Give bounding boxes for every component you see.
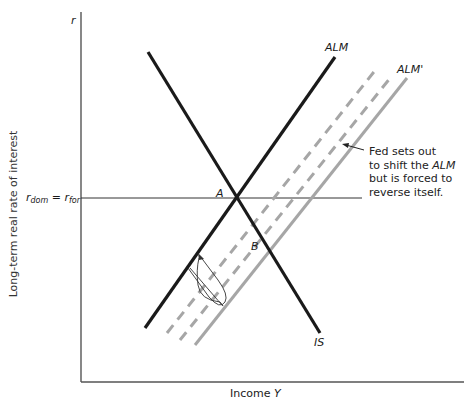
- annotation-line-2-text: to shift the: [369, 159, 432, 172]
- alm-intermediate-curve-1: [167, 68, 377, 333]
- annotation-text: Fed sets out to shift the ALM but is for…: [369, 145, 456, 199]
- annotation-line-3: but is forced to: [369, 172, 456, 186]
- point-a-label: A: [216, 187, 224, 200]
- point-b-label: B: [251, 240, 259, 253]
- rate-subscript-dom: dom: [31, 196, 49, 205]
- is-label: IS: [314, 336, 324, 349]
- annotation-arrowhead-icon: [342, 143, 349, 148]
- annotation-line-2-alm: ALM: [432, 159, 455, 172]
- equals-sign: =: [48, 191, 64, 204]
- rate-subscript-for: for: [69, 196, 80, 205]
- y-axis-label: Long-term real rate of interest: [7, 131, 20, 298]
- annotation-line-1: Fed sets out: [369, 145, 456, 159]
- alm-prime-label: ALM': [397, 63, 423, 76]
- alm-label: ALM: [325, 41, 348, 54]
- annotation-line-2: to shift the ALM: [369, 159, 456, 173]
- y-axis-symbol: r: [71, 14, 76, 27]
- x-axis-label-text: Income: [230, 387, 274, 400]
- loop-arrowhead-icon: [198, 253, 204, 260]
- x-axis-label: Income Y: [230, 387, 281, 400]
- annotation-line-4: reverse itself.: [369, 186, 456, 200]
- rate-parity-label: rdom = rfor: [26, 191, 80, 207]
- x-axis-label-var: Y: [274, 387, 281, 400]
- is-curve: [148, 52, 320, 333]
